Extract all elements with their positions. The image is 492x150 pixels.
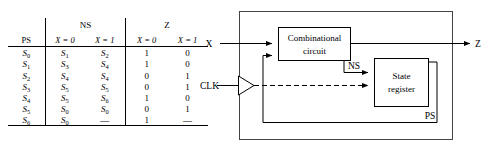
x-input-label: X — [206, 39, 213, 49]
table-row: S5S0S001 — [8, 103, 208, 114]
cell-ns_x0: S0 — [45, 114, 84, 126]
table-header: NS Z PS X = 0 X = 1 X = 0 X = 1 — [8, 18, 208, 47]
table-row: S0S1S210 — [8, 47, 208, 59]
sequential-circuit-block-diagram: Combinational circuit State register X C… — [196, 0, 492, 150]
group-header-blank — [8, 18, 45, 31]
state-transition-table: NS Z PS X = 0 X = 1 X = 0 X = 1 S0S1S210… — [8, 18, 208, 138]
present-state-label: PS — [425, 111, 436, 121]
cell-ps: S2 — [8, 69, 45, 80]
cell-ns_x0: S0 — [45, 103, 84, 114]
cell-z_x0: 1 — [126, 47, 167, 59]
state-register-box — [375, 59, 429, 107]
next-state-label: NS — [348, 61, 360, 71]
cell-ps: S0 — [8, 47, 45, 59]
cell-ns_x1: S5 — [84, 81, 125, 92]
cell-z_x0: 0 — [126, 69, 167, 80]
column-header-ns-x0: X = 0 — [45, 31, 84, 47]
combinational-circuit-label-line1: Combinational — [288, 33, 342, 43]
cell-z_x0: 1 — [126, 92, 167, 103]
cell-ns_x1: S0 — [84, 103, 125, 114]
block-diagram-svg: Combinational circuit State register X C… — [196, 0, 492, 150]
clk-arrowhead — [362, 83, 369, 88]
clock-buffer-triangle — [239, 76, 255, 95]
cell-z_x0: 1 — [126, 58, 167, 69]
cell-ps: S3 — [8, 81, 45, 92]
cell-z_x0: 0 — [126, 103, 167, 114]
cell-ps: S5 — [8, 103, 45, 114]
state-register-label-line1: State — [393, 71, 411, 81]
cell-ns_x1: S2 — [84, 47, 125, 59]
table-row: S6S0—1— — [8, 114, 208, 126]
cell-ns_x1: S4 — [84, 58, 125, 69]
column-header-ps: PS — [8, 31, 45, 47]
table-row: S2S4S401 — [8, 69, 208, 80]
table-row: S3S5S501 — [8, 81, 208, 92]
cell-ns_x1: — — [84, 114, 125, 126]
cell-ns_x1: S4 — [84, 69, 125, 80]
group-header-ns: NS — [45, 18, 126, 31]
cell-z_x0: 0 — [126, 81, 167, 92]
state-register-label-line2: register — [388, 84, 415, 94]
column-header-ns-x1: X = 1 — [84, 31, 125, 47]
clk-input-label: CLK — [200, 81, 219, 91]
table-row: S1S3S410 — [8, 58, 208, 69]
figure-container: NS Z PS X = 0 X = 1 X = 0 X = 1 S0S1S210… — [0, 0, 492, 150]
table-group-header-row: NS Z — [8, 18, 208, 31]
combinational-circuit-label-line2: circuit — [303, 46, 326, 56]
z-output-label: Z — [475, 39, 481, 49]
table-body: S0S1S210S1S3S410S2S4S401S3S5S501S4S5S610… — [8, 47, 208, 126]
cell-ns_x0: S1 — [45, 47, 84, 59]
cell-ns_x0: S5 — [45, 92, 84, 103]
cell-ps: S6 — [8, 114, 45, 126]
cell-ps: S1 — [8, 58, 45, 69]
cell-ns_x0: S3 — [45, 58, 84, 69]
column-header-z-x0: X = 0 — [126, 31, 167, 47]
table: NS Z PS X = 0 X = 1 X = 0 X = 1 S0S1S210… — [8, 18, 208, 126]
cell-z_x0: 1 — [126, 114, 167, 126]
table-row: S4S5S610 — [8, 92, 208, 103]
cell-ns_x1: S6 — [84, 92, 125, 103]
cell-ps: S4 — [8, 92, 45, 103]
cell-ns_x0: S5 — [45, 81, 84, 92]
cell-ns_x0: S4 — [45, 69, 84, 80]
table-sub-header-row: PS X = 0 X = 1 X = 0 X = 1 — [8, 31, 208, 47]
